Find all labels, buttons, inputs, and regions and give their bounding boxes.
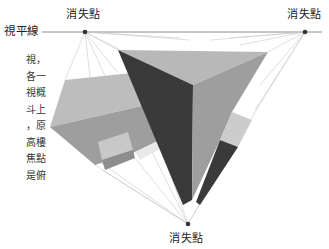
vanishing-point-bottom (186, 222, 191, 227)
side-text-line: ，原 (0, 118, 46, 135)
vanishing-point-bottom-label: 消失點 (169, 233, 204, 244)
side-text-line: 焦點 (0, 151, 46, 168)
vanishing-point-right-label: 消失點 (287, 9, 322, 20)
vanishing-point-left-label: 消失點 (66, 9, 101, 20)
vanishing-point-left (83, 30, 88, 35)
side-text-line: 各一 (0, 69, 46, 86)
horizon-label: 視平線 (4, 26, 39, 38)
perspective-diagram (0, 0, 329, 249)
vanishing-point-right (303, 30, 308, 35)
side-text-line: 斗上 (0, 102, 46, 119)
side-text-line: 視， (0, 52, 46, 69)
side-text-line: 視概 (0, 85, 46, 102)
side-paragraph-text: 視， 各一 視概 斗上 ，原 高樓 焦點 是俯 (0, 52, 46, 184)
side-text-line: 高樓 (0, 135, 46, 152)
side-text-line: 是俯 (0, 168, 46, 185)
